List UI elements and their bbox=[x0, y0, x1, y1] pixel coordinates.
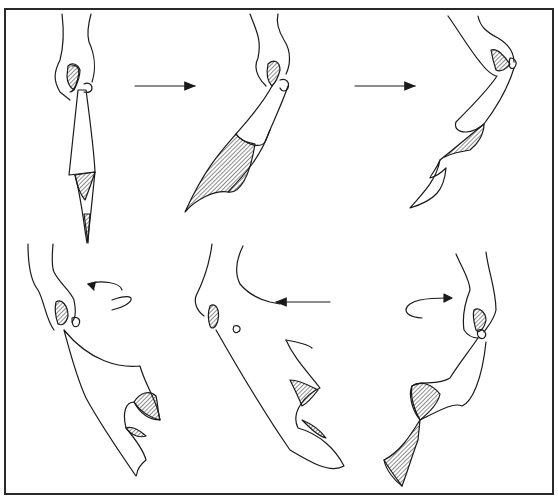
thumb-shade bbox=[67, 64, 80, 90]
illustration bbox=[0, 0, 558, 501]
arm-outline bbox=[55, 14, 70, 100]
panel-2 bbox=[185, 14, 290, 212]
curved-arrow-right-icon bbox=[406, 298, 446, 318]
panel-5 bbox=[195, 244, 344, 469]
panel-3 bbox=[410, 16, 516, 208]
cloth bbox=[69, 90, 95, 175]
curved-arrow-left-icon bbox=[112, 297, 131, 310]
panel-4 bbox=[28, 244, 160, 476]
panel-6 bbox=[384, 252, 496, 486]
panel-1 bbox=[55, 14, 95, 243]
